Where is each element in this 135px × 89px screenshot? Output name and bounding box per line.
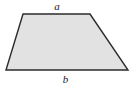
side-label-a: a bbox=[0, 1, 114, 12]
trapezoid-figure: a b bbox=[0, 0, 135, 89]
trapezoid-shape bbox=[6, 14, 128, 70]
side-label-b: b bbox=[0, 74, 131, 85]
